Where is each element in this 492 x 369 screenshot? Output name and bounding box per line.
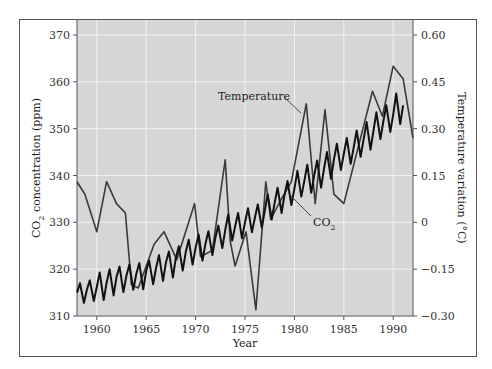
left-tick-label: 340 [49,170,70,183]
right-axis-title: Temperature variation (°C) [455,92,468,243]
x-tick-label: 1965 [132,323,160,336]
right-tick-label: 0.30 [421,123,446,136]
right-tick-label: −0.15 [421,263,455,276]
left-tick-label: 370 [49,29,70,42]
x-tick-label: 1990 [379,323,407,336]
x-tick-label: 1960 [83,323,111,336]
x-axis-title: Year [232,337,258,350]
left-tick-label: 350 [49,123,70,136]
x-tick-label: 1980 [280,323,308,336]
right-tick-label: −0.30 [421,310,455,323]
chart: 310320330340350360370 −0.30−0.1500.150.3… [0,0,492,369]
right-tick-label: 0 [421,216,428,229]
right-tick-label: 0.45 [421,76,446,89]
left-tick-label: 360 [49,76,70,89]
x-tick-label: 1975 [231,323,259,336]
temperature-annotation: Temperature [218,90,290,103]
left-tick-label: 330 [49,216,70,229]
left-tick-label: 320 [49,263,70,276]
x-tick-label: 1985 [330,323,358,336]
left-tick-label: 310 [49,310,70,323]
x-tick-label: 1970 [182,323,210,336]
right-tick-label: 0.60 [421,29,446,42]
right-tick-label: 0.15 [421,170,446,183]
